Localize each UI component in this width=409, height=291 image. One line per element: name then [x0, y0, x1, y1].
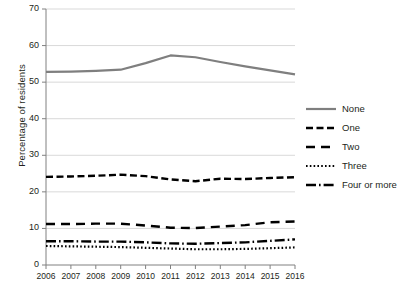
- series-line: [46, 221, 295, 228]
- legend-swatch-icon: [306, 161, 336, 171]
- legend: NoneOneTwoThreeFour or more: [306, 99, 409, 194]
- y-tick-label: 20: [19, 187, 39, 196]
- legend-label: Three: [342, 160, 367, 171]
- legend-item[interactable]: One: [306, 118, 409, 137]
- series-line: [46, 246, 295, 249]
- legend-item[interactable]: Four or more: [306, 175, 409, 194]
- y-tick-label: 70: [19, 4, 39, 13]
- legend-label: Four or more: [342, 179, 397, 190]
- gridlines: [46, 9, 295, 228]
- y-axis-tick-marks: [42, 9, 46, 265]
- legend-swatch-icon: [306, 180, 336, 190]
- x-tick-label: 2016: [280, 272, 310, 281]
- legend-swatch-icon: [306, 123, 336, 133]
- data-series: [46, 55, 295, 249]
- series-line: [46, 55, 295, 74]
- y-tick-label: 0: [19, 260, 39, 269]
- y-tick-label: 60: [19, 41, 39, 50]
- legend-swatch-icon: [306, 142, 336, 152]
- legend-item[interactable]: None: [306, 99, 409, 118]
- x-axis-tick-marks: [46, 265, 295, 269]
- y-tick-label: 10: [19, 223, 39, 232]
- y-tick-label: 30: [19, 150, 39, 159]
- legend-label: One: [342, 122, 360, 133]
- legend-item[interactable]: Three: [306, 156, 409, 175]
- series-line: [46, 239, 295, 243]
- legend-swatch-icon: [306, 104, 336, 114]
- legend-item[interactable]: Two: [306, 137, 409, 156]
- line-chart: Percentage of residents 010203040506070 …: [0, 0, 409, 291]
- legend-label: None: [342, 103, 365, 114]
- y-tick-label: 50: [19, 77, 39, 86]
- legend-label: Two: [342, 141, 359, 152]
- series-line: [46, 175, 295, 182]
- y-tick-label: 40: [19, 114, 39, 123]
